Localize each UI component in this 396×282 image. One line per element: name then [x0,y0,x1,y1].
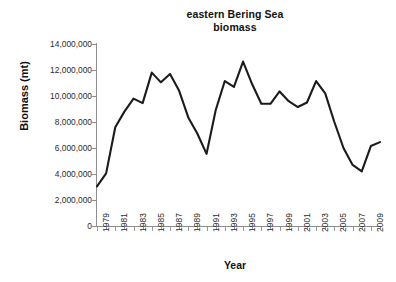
y-axis-tick-mark [92,226,96,227]
y-axis-tick-label: 10,000,000 [30,91,92,101]
y-axis-tick-label: 8,000,000 [30,117,92,127]
x-axis-tick-mark [134,227,135,231]
y-axis-tick-label: 4,000,000 [30,169,92,179]
x-axis-tick-label: 1983 [138,213,148,232]
x-axis-tick-mark [188,227,189,231]
chart-figure: eastern Bering Sea biomass Biomass (mt) … [0,0,396,282]
chart-title-line-1: eastern Bering Sea [120,8,350,21]
x-axis-tick-label: 2001 [302,213,312,232]
x-axis-tick-mark [115,227,116,231]
y-axis-tick-mark [92,174,96,175]
x-axis-tick-label: 2005 [338,213,348,232]
chart-title-line-2: biomass [120,21,350,34]
x-axis-tick-label: 1987 [174,213,184,232]
x-axis-tick-label: 1985 [156,213,166,232]
x-axis-tick-mark [152,227,153,231]
y-axis-tick-label: 12,000,000 [30,65,92,75]
y-axis-tick-label: 6,000,000 [30,143,92,153]
x-axis-tick-label: 1989 [192,213,202,232]
y-axis-line [96,43,97,227]
x-axis-tick-label: 1993 [229,213,239,232]
x-axis-tick-mark [316,227,317,231]
y-axis-tick-mark [92,70,96,71]
x-axis-tick-mark [170,227,171,231]
y-axis-tick-mark [92,96,96,97]
x-axis-tick-mark [280,227,281,231]
biomass-line-series [97,62,380,187]
x-axis-tick-label: 2003 [320,213,330,232]
x-axis-tick-mark [261,227,262,231]
x-axis-tick-label: 2007 [357,213,367,232]
y-axis-tick-labels: 02,000,0004,000,0006,000,0008,000,00010,… [26,0,92,282]
y-axis-tick-mark [92,148,96,149]
x-axis-tick-mark [225,227,226,231]
x-axis-tick-mark [371,227,372,231]
y-axis-tick-label: 0 [30,221,92,231]
x-axis-tick-label: 1981 [119,213,129,232]
x-axis-tick-mark [353,227,354,231]
y-axis-tick-mark [92,44,96,45]
y-axis-tick-label: 2,000,000 [30,195,92,205]
x-axis-tick-mark [243,227,244,231]
chart-title: eastern Bering Sea biomass [120,8,350,34]
x-axis-tick-mark [298,227,299,231]
y-axis-tick-mark [92,122,96,123]
x-axis-tick-label: 1995 [247,213,257,232]
x-axis-title: Year [90,259,380,271]
x-axis-tick-mark [334,227,335,231]
x-axis-tick-mark [97,227,98,231]
x-axis-tick-label: 1979 [101,213,111,232]
y-axis-tick-label: 14,000,000 [30,39,92,49]
x-axis-tick-label: 1991 [211,213,221,232]
x-axis-tick-mark [207,227,208,231]
y-axis-tick-mark [92,200,96,201]
x-axis-tick-label: 2009 [375,213,385,232]
x-axis-tick-label: 1999 [284,213,294,232]
x-axis-tick-label: 1997 [265,213,275,232]
